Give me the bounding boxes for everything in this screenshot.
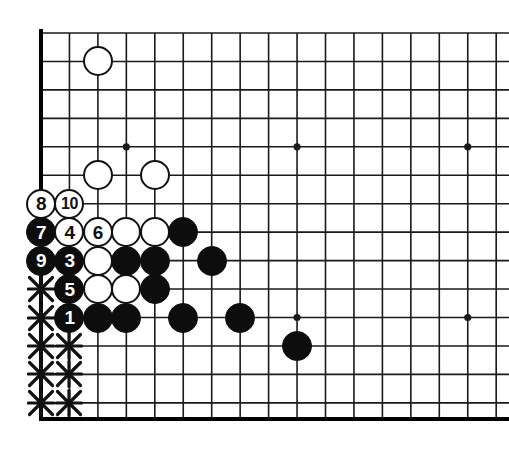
stone-number-label: 10 — [61, 195, 78, 211]
stone-black — [111, 246, 141, 276]
numbered-stone-10: 10 — [54, 189, 84, 219]
stone-white — [83, 274, 113, 304]
stone-white — [83, 160, 113, 190]
numbered-stone-1: 1 — [54, 303, 84, 333]
numbered-stone-3: 3 — [54, 246, 84, 276]
star-point — [464, 143, 471, 150]
numbered-stone-8: 8 — [26, 189, 56, 219]
stone-black — [282, 331, 312, 361]
stone-number-label: 9 — [36, 251, 46, 270]
numbered-stone-6: 6 — [83, 217, 113, 247]
numbered-stone-9: 9 — [26, 246, 56, 276]
stone-black — [111, 303, 141, 333]
go-board-diagram: 8107469351 — [0, 0, 509, 459]
numbered-stone-7: 7 — [26, 217, 56, 247]
star-point — [464, 314, 471, 321]
stone-white — [140, 160, 170, 190]
stone-number-label: 1 — [64, 308, 74, 327]
stone-black — [168, 303, 198, 333]
stone-black — [197, 246, 227, 276]
stone-number-label: 8 — [36, 194, 46, 213]
stone-number-label: 4 — [64, 222, 74, 241]
stone-number-label: 3 — [64, 251, 74, 270]
stone-number-label: 5 — [64, 279, 74, 298]
star-point — [293, 314, 300, 321]
star-point — [293, 143, 300, 150]
stone-white — [140, 217, 170, 247]
stone-number-label: 6 — [93, 222, 103, 241]
stone-black — [225, 303, 255, 333]
stone-black — [140, 246, 170, 276]
stone-black — [140, 274, 170, 304]
stone-black — [83, 303, 113, 333]
stone-number-label: 7 — [36, 222, 46, 241]
stone-white — [83, 246, 113, 276]
star-point — [123, 143, 130, 150]
